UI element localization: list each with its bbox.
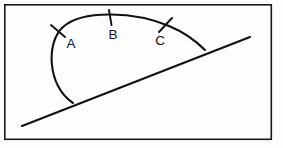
point-label-a: A xyxy=(66,36,75,51)
diagram-frame xyxy=(5,5,272,140)
diagram-root: A B C xyxy=(0,0,283,148)
geometry-diagram: A B C xyxy=(0,0,283,148)
point-label-b: B xyxy=(108,27,117,42)
point-label-c: C xyxy=(155,33,165,48)
